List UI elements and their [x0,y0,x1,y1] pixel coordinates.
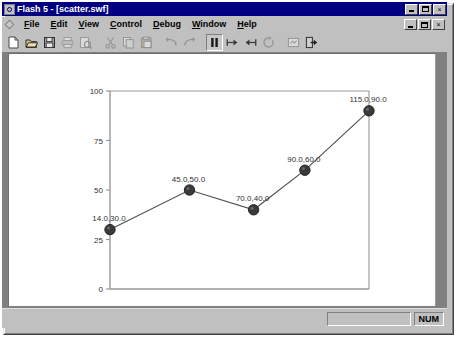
data-point-highlight [366,108,369,111]
cut-icon [102,34,119,51]
child-close-button[interactable]: × [432,19,445,30]
paste-icon [138,34,155,51]
menu-label-control: ontrol [116,19,142,29]
data-point-marker[interactable] [248,205,258,215]
status-pane-num: NUM [414,312,445,326]
y-tick-label: 100 [90,87,104,96]
data-point-highlight [186,187,189,190]
menu-item-view[interactable]: View [74,18,105,31]
menu-item-control[interactable]: Control [105,18,148,31]
flash-player-window: Flash 5 - [scatter.swf] × File Edit View… [0,0,457,338]
swf-document-window: 025507510014.0,30.045.0,50.070.0,40.090.… [8,53,436,306]
toolbar-separator [280,34,283,50]
data-point-highlight [251,207,254,210]
export-icon[interactable] [303,34,320,51]
toolbar-separator [97,34,100,50]
point-label: 115.0,90.0 [349,95,387,104]
toolbar-separator [201,34,204,50]
pause-icon[interactable] [206,34,223,51]
y-tick-label: 0 [99,285,104,294]
maximize-button[interactable] [419,4,432,15]
menu-label-debug: ebug [159,19,181,29]
menu-bar: File Edit View Control Debug Window Help… [2,17,447,32]
child-close-icon: × [433,20,444,29]
menu-item-window[interactable]: Window [187,18,232,31]
show-all-icon [285,34,302,51]
print-icon [59,34,76,51]
minimize-button[interactable] [405,4,418,15]
toolbar [2,32,447,53]
y-tick-label: 75 [94,137,103,146]
status-pane-message [327,312,411,326]
child-window-controls: × [404,19,447,30]
loop-icon [260,34,277,51]
new-icon[interactable] [5,34,22,51]
data-point-marker[interactable] [300,165,310,175]
menu-label-help: elp [244,19,257,29]
chart-canvas: 025507510014.0,30.045.0,50.070.0,40.090.… [9,54,436,306]
data-point-highlight [107,227,110,230]
copy-icon [120,34,137,51]
title-bar[interactable]: Flash 5 - [scatter.swf] × [2,2,447,16]
window-controls: × [405,4,446,15]
menu-item-help[interactable]: Help [232,18,263,31]
window-title: Flash 5 - [scatter.swf] [17,4,405,15]
save-icon[interactable] [41,34,58,51]
point-label: 70.0,40.0 [236,194,270,203]
y-tick-label: 25 [94,236,103,245]
point-label: 45.0,50.0 [172,175,206,184]
menu-label-window: indow [200,19,226,29]
print-preview-icon [77,34,94,51]
point-label: 14.0,30.0 [92,214,126,223]
menu-item-edit[interactable]: Edit [46,18,74,31]
child-restore-button[interactable] [418,19,431,30]
document-control-icon[interactable] [4,19,16,31]
menu-item-debug[interactable]: Debug [148,18,187,31]
step-forward-icon[interactable] [224,34,241,51]
data-point-marker[interactable] [105,224,115,234]
point-label: 90.0,60.0 [287,155,321,164]
child-minimize-button[interactable] [404,19,417,30]
mdi-client-area: 025507510014.0,30.045.0,50.070.0,40.090.… [2,53,447,308]
scatter-chart: 025507510014.0,30.045.0,50.070.0,40.090.… [9,54,435,306]
step-back-icon[interactable] [242,34,259,51]
menu-label-file: ile [30,19,40,29]
undo-icon [163,34,180,51]
flash-icon [4,4,15,15]
toolbar-separator [158,34,161,50]
data-point-marker[interactable] [184,185,194,195]
close-icon: × [434,5,445,14]
y-tick-label: 50 [94,186,103,195]
status-bar: NUM [2,308,447,328]
close-button[interactable]: × [433,4,446,15]
data-point-highlight [302,167,305,170]
data-point-marker[interactable] [364,106,374,116]
menu-label-edit: dit [57,19,68,29]
chart-background [9,54,436,306]
open-icon[interactable] [23,34,40,51]
menu-label-view: iew [84,19,99,29]
redo-icon [181,34,198,51]
menu-item-file[interactable]: File [19,18,46,31]
